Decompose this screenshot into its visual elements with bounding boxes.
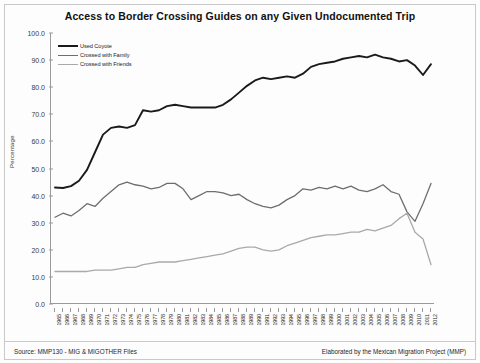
y-tick-mark [49, 114, 53, 115]
footer-bar: Source: MMP130 - MIG & MIGOTHER Files El… [4, 341, 476, 360]
x-tick-label: 1999 [328, 314, 334, 326]
x-tick-mark [198, 308, 199, 312]
x-tick-mark [430, 308, 431, 312]
x-tick-label: 1982 [192, 314, 198, 326]
legend-swatch-icon [58, 64, 78, 65]
x-tick-label: 1977 [152, 314, 158, 326]
legend-item-1[interactable]: Crossed with Family [58, 51, 132, 60]
y-tick-mark [49, 195, 53, 196]
x-tick-mark [102, 308, 103, 312]
y-tick-mark [49, 249, 53, 250]
x-tick-label: 1965 [56, 314, 62, 326]
x-tick-label: 2008 [400, 314, 406, 326]
x-tick-label: 1969 [88, 314, 94, 326]
legend-swatch-icon [58, 45, 78, 47]
series-line-1 [55, 182, 431, 221]
footer-credit-text: Elaborated by the Mexican Migration Proj… [322, 348, 466, 355]
plot-area: 0.010.020.030.040.050.060.070.080.090.01… [50, 33, 434, 304]
y-tick-mark [49, 60, 53, 61]
legend-swatch-icon [58, 55, 78, 56]
x-tick-mark [382, 308, 383, 312]
x-tick-label: 2009 [408, 314, 414, 326]
series-lines [51, 33, 434, 303]
x-tick-label: 1984 [208, 314, 214, 326]
y-tick-mark [49, 168, 53, 169]
x-tick-mark [134, 308, 135, 312]
x-tick-label: 1981 [184, 314, 190, 326]
x-tick-mark [142, 308, 143, 312]
y-tick-mark [49, 141, 53, 142]
legend-label: Used Coyote [80, 43, 112, 49]
x-tick-label: 1968 [80, 314, 86, 326]
x-tick-mark [358, 308, 359, 312]
x-tick-label: 1975 [136, 314, 142, 326]
x-tick-label: 1983 [200, 314, 206, 326]
x-tick-mark [262, 308, 263, 312]
y-tick-mark [49, 304, 53, 305]
x-tick-label: 1991 [264, 314, 270, 326]
x-tick-mark [318, 308, 319, 312]
x-tick-mark [350, 308, 351, 312]
x-tick-label: 1996 [304, 314, 310, 326]
y-tick-label: 100.0 [27, 30, 51, 37]
x-tick-label: 2003 [360, 314, 366, 326]
x-tick-mark [62, 308, 63, 312]
y-tick-mark [49, 87, 53, 88]
x-tick-mark [94, 308, 95, 312]
chart-legend: Used CoyoteCrossed with FamilyCrossed wi… [58, 42, 132, 69]
x-tick-mark [326, 308, 327, 312]
x-tick-label: 1990 [256, 314, 262, 326]
x-tick-mark [294, 308, 295, 312]
page-title: Access to Border Crossing Guides on any … [0, 10, 480, 22]
y-tick-mark [49, 276, 53, 277]
x-tick-label: 1973 [120, 314, 126, 326]
x-tick-mark [406, 308, 407, 312]
x-tick-label: 2004 [368, 314, 374, 326]
x-tick-label: 1970 [96, 314, 102, 326]
series-line-2 [55, 213, 431, 271]
x-tick-mark [342, 308, 343, 312]
y-tick-mark [49, 222, 53, 223]
x-tick-label: 2002 [352, 314, 358, 326]
x-tick-label: 1974 [128, 314, 134, 326]
x-tick-label: 1997 [312, 314, 318, 326]
y-axis-label: Percentage [9, 135, 15, 168]
x-tick-label: 1985 [216, 314, 222, 326]
x-tick-label: 2012 [432, 314, 438, 326]
x-tick-mark [126, 308, 127, 312]
x-tick-mark [230, 308, 231, 312]
x-tick-label: 1995 [296, 314, 302, 326]
x-tick-label: 1987 [232, 314, 238, 326]
x-tick-mark [246, 308, 247, 312]
legend-item-2[interactable]: Crossed with Friends [58, 60, 132, 69]
x-tick-label: 2007 [392, 314, 398, 326]
legend-item-0[interactable]: Used Coyote [58, 42, 132, 51]
x-tick-mark [238, 308, 239, 312]
x-tick-mark [374, 308, 375, 312]
x-tick-mark [390, 308, 391, 312]
x-tick-label: 2001 [344, 314, 350, 326]
x-tick-mark [310, 308, 311, 312]
x-tick-mark [158, 308, 159, 312]
x-tick-mark [366, 308, 367, 312]
x-tick-label: 2006 [384, 314, 390, 326]
x-tick-mark [118, 308, 119, 312]
x-tick-label: 1992 [272, 314, 278, 326]
footer-source-text: Source: MMP130 - MIG & MIGOTHER Files [14, 348, 137, 355]
x-tick-label: 1966 [64, 314, 70, 326]
x-tick-label: 1972 [112, 314, 118, 326]
x-tick-mark [190, 308, 191, 312]
x-tick-mark [182, 308, 183, 312]
x-tick-mark [70, 308, 71, 312]
x-tick-mark [414, 308, 415, 312]
x-tick-label: 1979 [168, 314, 174, 326]
x-tick-label: 1989 [248, 314, 254, 326]
x-tick-mark [150, 308, 151, 312]
x-tick-mark [302, 308, 303, 312]
legend-label: Crossed with Friends [80, 61, 132, 67]
x-tick-mark [398, 308, 399, 312]
x-tick-label: 1994 [288, 314, 294, 326]
x-tick-mark [166, 308, 167, 312]
x-tick-label: 1998 [320, 314, 326, 326]
x-tick-label: 1971 [104, 314, 110, 326]
